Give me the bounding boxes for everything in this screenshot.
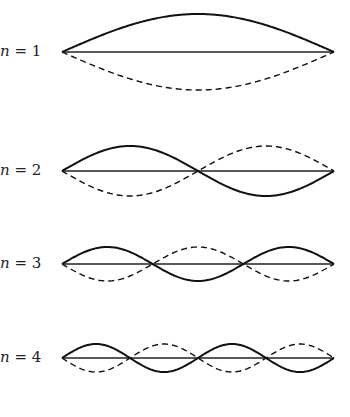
wave-dashed (62, 52, 334, 90)
standing-wave-diagram (0, 0, 350, 417)
mode-3 (62, 247, 334, 281)
mode-4 (62, 344, 334, 372)
mode-1 (62, 14, 334, 90)
wave-solid (62, 14, 334, 52)
mode-2 (62, 146, 334, 196)
